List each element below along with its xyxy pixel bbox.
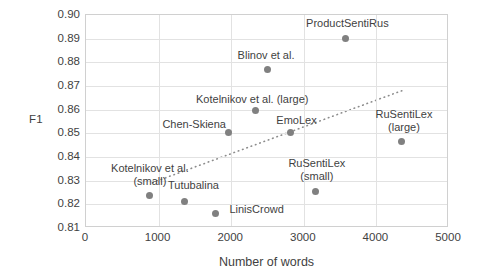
y-tick-label: 0.84 <box>40 150 80 162</box>
y-tick-label: 0.83 <box>40 174 80 186</box>
data-point-label: RuSentiLex (large) <box>376 108 433 134</box>
gridline-horizontal <box>86 86 447 87</box>
data-point-marker <box>181 198 188 205</box>
y-tick-label: 0.88 <box>40 55 80 67</box>
y-tick-label: 0.86 <box>40 103 80 115</box>
x-tick-label: 2000 <box>200 231 260 243</box>
y-tick-label: 0.90 <box>40 8 80 20</box>
data-point-label: LinisCrowd <box>229 203 283 216</box>
data-point-marker <box>252 107 259 114</box>
data-point-marker <box>342 35 349 42</box>
y-tick-label: 0.89 <box>40 32 80 44</box>
data-point-marker <box>287 129 294 136</box>
x-axis-label: Number of words <box>85 255 448 269</box>
x-tick-label: 1000 <box>128 231 188 243</box>
data-point-marker <box>212 210 219 217</box>
y-tick-label: 0.87 <box>40 79 80 91</box>
data-point-label: RuSentiLex (small) <box>288 157 345 183</box>
x-axis-tick-labels: 010002000300040005000 <box>85 231 448 247</box>
data-point-label: Kotelnikov et al. (large) <box>196 93 309 106</box>
y-axis-tick-labels: 0.810.820.830.840.850.860.870.880.890.90 <box>38 14 80 227</box>
gridline-horizontal <box>86 39 447 40</box>
data-point-label: Blinov et al. <box>238 49 295 62</box>
data-point-label: EmoLex <box>276 114 316 127</box>
x-tick-label: 5000 <box>418 231 477 243</box>
x-tick-label: 3000 <box>273 231 333 243</box>
data-point-label: ProductSentiRus <box>306 17 389 30</box>
x-tick-label: 4000 <box>345 231 405 243</box>
data-point-marker <box>312 188 319 195</box>
gridline-horizontal <box>86 62 447 63</box>
data-point-marker <box>398 138 405 145</box>
data-point-marker <box>146 192 153 199</box>
gridline-horizontal <box>86 157 447 158</box>
x-tick-label: 0 <box>55 231 115 243</box>
scatter-chart-figure: F1 0.810.820.830.840.850.860.870.880.890… <box>0 0 477 280</box>
gridline-vertical <box>231 15 232 226</box>
y-tick-label: 0.85 <box>40 126 80 138</box>
data-point-label: Tutubalina <box>168 179 219 192</box>
data-point-marker <box>264 66 271 73</box>
data-point-label: Chen-Skiena <box>162 118 226 131</box>
plot-area: Kotelnikov et al. (small)TutubalinaLinis… <box>85 14 448 227</box>
y-tick-label: 0.82 <box>40 197 80 209</box>
gridline-vertical <box>159 15 160 226</box>
